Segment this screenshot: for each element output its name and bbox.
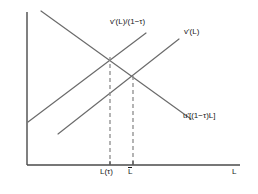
x-tick-label-ltau: L(τ)	[100, 168, 113, 176]
curve-label-supply-taxed: v'(L)/(1−τ)	[110, 18, 145, 26]
x-tick-label-lbar: L	[128, 167, 132, 176]
curve-supply-taxed	[28, 33, 146, 122]
curve-label-demand: u'[(1−τ)L]	[183, 112, 215, 120]
economics-diagram: v'(L)/(1−τ) v'(L) u'[(1−τ)L] L(τ) L L	[0, 0, 258, 194]
diagram-canvas	[0, 0, 258, 194]
curve-demand	[41, 11, 191, 119]
curve-label-supply: v'(L)	[184, 28, 199, 36]
x-axis-label: L	[232, 168, 236, 176]
x-tick-label-lbar-text: L	[128, 167, 132, 176]
